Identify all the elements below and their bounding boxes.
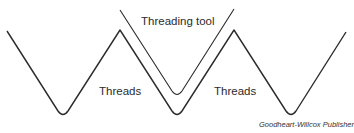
threads-label-left: Threads	[99, 85, 141, 97]
thread-diagram: Threading tool Threads Threads Goodheart…	[0, 0, 354, 133]
thread-profile-line	[7, 30, 346, 115]
threading-tool-label: Threading tool	[141, 15, 215, 27]
threads-label-right: Threads	[214, 85, 256, 97]
publisher-credit: Goodheart-Willcox Publisher	[259, 120, 354, 129]
